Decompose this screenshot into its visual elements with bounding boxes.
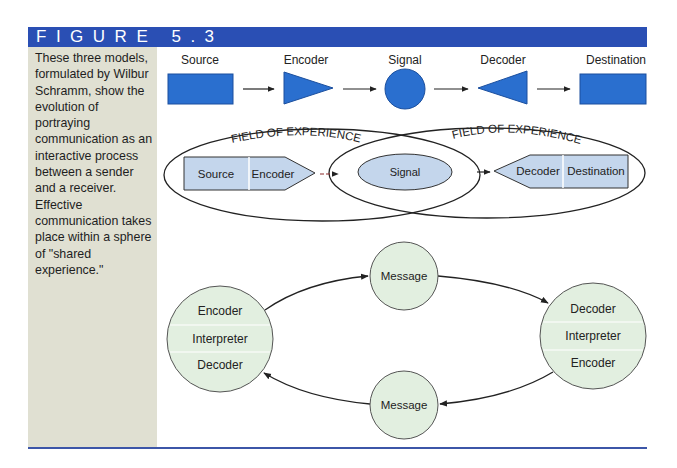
circle-label: Interpreter: [565, 329, 620, 343]
circle-label: Decoder: [197, 358, 242, 372]
signal-label: Signal: [390, 166, 421, 178]
decoder-triangle-icon: [478, 71, 527, 104]
encoder-triangle-icon: [284, 72, 333, 104]
schramm-models-diagram: Source Encoder Signal Decoder Destinatio…: [0, 0, 677, 468]
model-interactive: Encoder Interpreter Decoder Message Mess…: [167, 242, 646, 439]
label-source: Source: [181, 53, 219, 67]
source-rectangle-icon: [168, 74, 233, 104]
arrow-icon: [438, 276, 548, 303]
field-label-right: FIELD OF EXPERIENCE: [451, 123, 584, 147]
label-destination: Destination: [586, 53, 646, 67]
svg-text:Message: Message: [381, 399, 428, 411]
field-label-left: FIELD OF EXPERIENCE: [230, 125, 363, 145]
bottom-rule: [28, 447, 647, 449]
encoder-label: Encoder: [252, 168, 295, 180]
label-signal: Signal: [388, 53, 421, 67]
circle-label: Encoder: [571, 356, 616, 370]
decoder-label: Decoder: [516, 165, 560, 177]
receiver-circle: Decoder Interpreter Encoder: [540, 283, 646, 389]
arrow-icon: [440, 372, 553, 404]
circle-label: Interpreter: [192, 332, 247, 346]
circle-label: Encoder: [198, 304, 243, 318]
model-linear: Source Encoder Signal Decoder Destinatio…: [168, 53, 646, 109]
arrow-icon: [265, 276, 368, 310]
message-circle-top: Message: [370, 242, 438, 310]
label-encoder: Encoder: [284, 53, 329, 67]
model-field-of-experience: FIELD OF EXPERIENCE FIELD OF EXPERIENCE …: [164, 123, 645, 221]
destination-label: Destination: [567, 165, 625, 177]
destination-rectangle-icon: [580, 74, 646, 104]
source-label: Source: [198, 168, 234, 180]
message-circle-bottom: Message: [370, 371, 438, 439]
arrow-icon: [264, 373, 370, 404]
svg-text:Message: Message: [381, 270, 428, 282]
signal-circle-icon: [385, 69, 425, 109]
circle-label: Decoder: [570, 302, 615, 316]
label-decoder: Decoder: [480, 53, 525, 67]
sender-circle: Encoder Interpreter Decoder: [167, 286, 273, 392]
